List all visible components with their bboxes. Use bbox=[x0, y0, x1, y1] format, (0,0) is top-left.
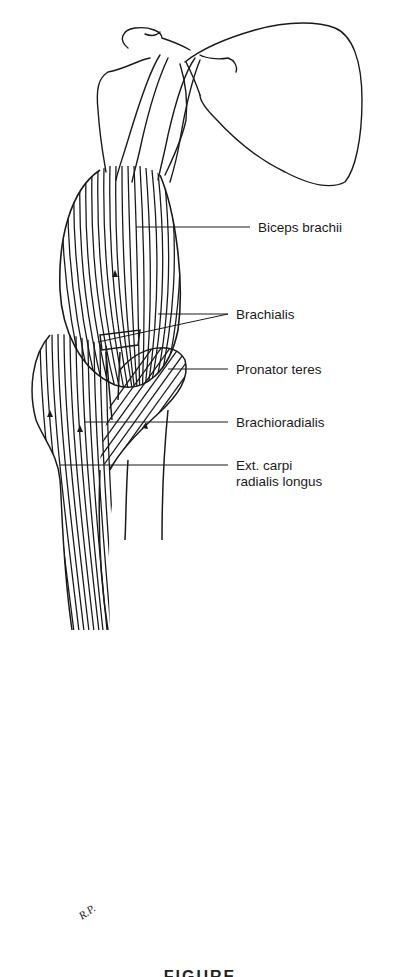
anatomy-figure: R.P. Biceps brachii Brachialis Pronator … bbox=[0, 0, 400, 977]
scapula-outline bbox=[185, 23, 362, 186]
label-biceps-brachii: Biceps brachii bbox=[258, 220, 342, 235]
label-ext-carpi-line-1: Ext. carpi bbox=[236, 458, 292, 473]
pronator-fibers bbox=[76, 329, 214, 486]
label-brachioradialis: Brachioradialis bbox=[236, 415, 325, 430]
biceps-fibers bbox=[62, 166, 181, 400]
forearm-outline bbox=[32, 335, 72, 630]
artist-initials: R.P. bbox=[75, 902, 97, 922]
ulna-outline bbox=[125, 460, 128, 540]
radius-outline bbox=[162, 410, 168, 540]
biceps-long-head-tendon bbox=[116, 55, 160, 180]
arm-muscle-illustration: R.P. bbox=[0, 0, 400, 977]
label-pronator-teres: Pronator teres bbox=[236, 362, 322, 377]
label-brachialis: Brachialis bbox=[236, 307, 295, 322]
label-ext-carpi-line-2: radialis longus bbox=[236, 474, 322, 489]
biceps-short-head-tendon bbox=[158, 58, 195, 180]
acromion-outline bbox=[122, 28, 190, 50]
figure-caption: FIGURE bbox=[0, 966, 400, 977]
